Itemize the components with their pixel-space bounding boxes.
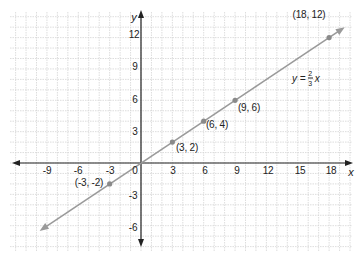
data-point: [170, 140, 175, 145]
point-label: (9, 6): [238, 103, 260, 113]
fraction-numerator: 2: [308, 70, 312, 77]
point-label: (18, 12): [293, 10, 326, 20]
data-point: [327, 35, 332, 40]
point-label: (-3, -2): [75, 178, 103, 188]
x-tick-label: -6: [74, 166, 83, 176]
point-label: (6, 4): [206, 120, 228, 130]
x-tick-label: 3: [170, 166, 175, 176]
line-series: [40, 27, 345, 231]
x-tick-label: 9: [234, 166, 239, 176]
y-tick-label: -6: [129, 223, 138, 233]
x-tick-label: 12: [263, 166, 274, 176]
equation-variable: x: [315, 73, 320, 84]
x-tick-label: -9: [43, 166, 52, 176]
point-label: (3, 2): [176, 143, 198, 153]
y-tick-label: 3: [132, 127, 137, 137]
equation-annotation: y = 2 3 x: [292, 70, 320, 87]
x-axis-label: x: [348, 166, 354, 178]
x-tick-label: -3: [106, 166, 115, 176]
y-tick-label: 6: [132, 95, 137, 105]
equation-fraction: 2 3: [308, 70, 313, 87]
x-tick-label: 18: [326, 166, 337, 176]
origin-label: 0: [132, 166, 137, 176]
y-tick-label: 9: [132, 62, 137, 72]
data-point: [107, 181, 112, 186]
x-tick-label: 6: [202, 166, 207, 176]
fraction-denominator: 3: [308, 80, 312, 87]
y-axis-label: y: [131, 11, 137, 23]
x-tick-label: 15: [295, 166, 306, 176]
data-point: [232, 98, 237, 103]
equation-prefix: y =: [292, 73, 306, 84]
y-tick-label: -3: [129, 191, 138, 201]
y-tick-label: 12: [129, 30, 140, 40]
coordinate-plane: [0, 0, 361, 259]
